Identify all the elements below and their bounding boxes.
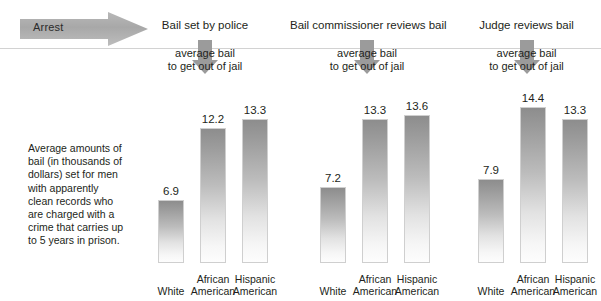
bar-value-label: 13.3 — [228, 104, 282, 116]
bar-category-line1: Hispanic — [235, 273, 275, 285]
bar-category-label: Hispanic American — [222, 273, 288, 297]
bar-value-label: 7.9 — [464, 164, 518, 176]
bar-rect[interactable] — [362, 119, 388, 263]
bar-value-label: 13.3 — [548, 104, 601, 116]
arrest-label: Arrest — [33, 21, 64, 33]
bar-category-label: Hispanic American — [384, 273, 450, 297]
bar-value-label: 7.2 — [306, 172, 360, 184]
bar-category-line1: Hispanic — [397, 273, 437, 285]
bar-rect[interactable] — [242, 119, 268, 263]
bar-rect[interactable] — [478, 179, 504, 263]
bar-value-label: 6.9 — [144, 185, 198, 197]
stage-group-commissioner: Bail commissioner reviews bail average b… — [290, 0, 444, 301]
figure-caption: Average amounts of bail (in thousands of… — [28, 142, 126, 248]
bar-value-label: 14.4 — [506, 92, 560, 104]
bar-category-label: Hispanic American — [542, 273, 601, 297]
bar-rect[interactable] — [562, 119, 588, 263]
bar-rect[interactable] — [320, 187, 346, 263]
stage-group-police: Bail set by police average bail to get o… — [128, 0, 282, 301]
bar-group: 6.9 White 12.2 African American 13.3 His… — [128, 0, 282, 301]
bar-rect[interactable] — [404, 115, 430, 263]
bar-rect[interactable] — [158, 200, 184, 263]
bar-value-label: 13.6 — [390, 100, 444, 112]
bar-category-line2: American — [395, 285, 439, 297]
bar-category-line1: Hispanic — [555, 273, 595, 285]
bail-chart-figure: Arrest Bail set by police average bail t… — [0, 0, 601, 301]
bar-category-line2: American — [553, 285, 597, 297]
bar-rect[interactable] — [200, 128, 226, 263]
bar-group: 7.9 White 14.4 African American 13.3 His… — [452, 0, 601, 301]
bar-group: 7.2 White 13.3 African American 13.6 His… — [290, 0, 444, 301]
bar-category-line2: American — [233, 285, 277, 297]
stage-group-judge: Judge reviews bail average bail to get o… — [452, 0, 601, 301]
bar-rect[interactable] — [520, 107, 546, 263]
